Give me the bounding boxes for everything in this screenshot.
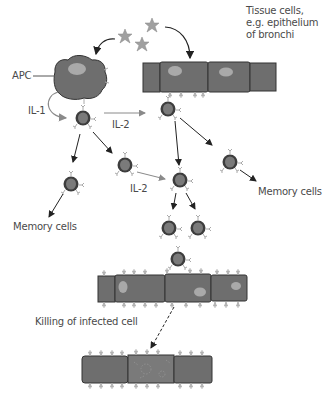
apc-cell <box>54 55 109 104</box>
tissue-cells-label: Tissue cells, e.g. epithelium of bronchi <box>246 5 318 41</box>
arrow-to-memory-right-cell <box>180 118 212 145</box>
arrow-antigen-to-apc <box>96 39 115 54</box>
antigen-star-icon <box>118 29 132 43</box>
antigen-star-icon <box>135 37 149 51</box>
t-helper-cell <box>73 105 96 129</box>
tissue-strip-top <box>143 62 276 98</box>
killing-label: Killing of infected cell <box>35 316 138 328</box>
memory-cells-left-label: Memory cells <box>13 221 77 233</box>
tissue-strip-infected <box>98 268 247 308</box>
memory-cell-left <box>61 171 84 195</box>
arrow-to-clone-left <box>173 193 176 209</box>
cytotoxic-cell-attacking <box>168 246 191 270</box>
memory-cell-right <box>220 149 243 173</box>
antigen-star-icon <box>145 18 159 32</box>
il2-top-label: IL-2 <box>112 119 130 131</box>
arrow-il2-mid <box>137 172 165 179</box>
arrow-to-mid-left-cell <box>93 132 112 153</box>
arrow-memory-left <box>49 194 63 217</box>
arrow-killing-dashed <box>151 307 174 348</box>
il1-label: IL-1 <box>28 105 46 117</box>
tissue-strip-killed <box>82 349 212 389</box>
t-cell-mid-left <box>115 152 138 176</box>
arrow-memory-right <box>240 170 256 181</box>
arrow-to-cytotoxic-cell <box>175 121 179 165</box>
il2-mid-label: IL-2 <box>130 183 148 195</box>
arrow-to-clone-right <box>186 193 195 209</box>
memory-cells-right-label: Memory cells <box>258 186 322 198</box>
arrow-to-memory-left-cell <box>73 134 80 162</box>
cytotoxic-clone-left <box>159 215 182 239</box>
cytotoxic-t-cell <box>170 167 193 191</box>
t-cell-activated <box>158 96 181 120</box>
antigen-group <box>118 18 159 51</box>
apc-label: APC <box>12 70 31 82</box>
arrow-antigen-to-tissue <box>165 27 190 58</box>
cytotoxic-clone-right <box>188 215 211 239</box>
